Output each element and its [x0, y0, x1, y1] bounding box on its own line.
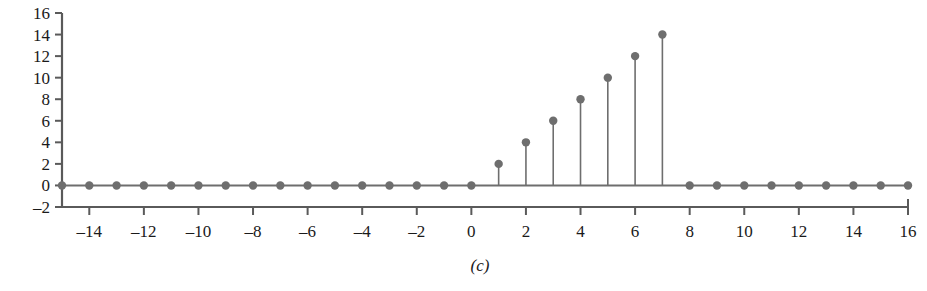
x-axis-tick-label: 4	[576, 222, 585, 241]
stem-marker	[467, 181, 475, 189]
stem-marker	[194, 181, 202, 189]
x-axis-tick-label: –10	[185, 222, 212, 241]
stem-marker	[713, 181, 721, 189]
x-axis-tick-label: –14	[76, 222, 103, 241]
y-axis-tick-label: 0	[42, 176, 51, 195]
x-axis-tick-label: 8	[685, 222, 694, 241]
stem-plot-figure: –20246810121416–14–12–10–8–6–4–202468101…	[0, 0, 927, 291]
x-axis-tick-label: 0	[467, 222, 476, 241]
stem-marker	[303, 181, 311, 189]
x-axis-tick-label: –6	[298, 222, 316, 241]
x-axis-tick-label: –12	[130, 222, 157, 241]
stem-marker	[276, 181, 284, 189]
stem-marker	[522, 138, 530, 146]
stem-marker	[112, 181, 120, 189]
stem-marker	[685, 181, 693, 189]
x-axis-tick-label: 2	[522, 222, 531, 241]
y-axis-tick-label: 6	[42, 112, 51, 131]
stem-marker	[58, 181, 66, 189]
y-axis-tick-label: 12	[33, 47, 50, 66]
stem-marker	[767, 181, 775, 189]
stem-marker	[494, 160, 502, 168]
x-axis-tick-label: –2	[407, 222, 425, 241]
y-axis-tick-label: 10	[33, 69, 50, 88]
stem-marker	[740, 181, 748, 189]
stem-marker	[849, 181, 857, 189]
stem-marker	[167, 181, 175, 189]
stem-marker	[631, 52, 639, 60]
stem-marker	[85, 181, 93, 189]
stem-marker	[358, 181, 366, 189]
stem-plot-canvas: –20246810121416–14–12–10–8–6–4–202468101…	[0, 0, 927, 291]
stem-marker	[440, 181, 448, 189]
stem-marker	[249, 181, 257, 189]
stem-marker	[385, 181, 393, 189]
stem-marker	[222, 181, 230, 189]
stem-marker	[658, 30, 666, 38]
x-axis-tick-label: 10	[736, 222, 753, 241]
stem-marker	[877, 181, 885, 189]
stem-marker	[140, 181, 148, 189]
stem-marker	[413, 181, 421, 189]
stem-marker	[576, 95, 584, 103]
y-axis-tick-label: –2	[32, 198, 50, 217]
stem-marker	[331, 181, 339, 189]
x-axis-tick-label: 14	[845, 222, 863, 241]
stem-marker	[795, 181, 803, 189]
y-axis-tick-label: 8	[42, 90, 51, 109]
x-axis-tick-label: 12	[790, 222, 807, 241]
stem-marker	[904, 181, 912, 189]
stem-marker	[604, 73, 612, 81]
figure-caption: (c)	[471, 256, 490, 275]
y-axis-tick-label: 4	[42, 133, 51, 152]
x-axis-tick-label: 16	[900, 222, 917, 241]
x-axis-tick-label: –8	[244, 222, 262, 241]
stem-marker	[549, 117, 557, 125]
y-axis-tick-label: 2	[42, 155, 51, 174]
x-axis-tick-label: –4	[353, 222, 372, 241]
y-axis-tick-label: 16	[33, 4, 50, 23]
y-axis-tick-label: 14	[33, 26, 51, 45]
x-axis-tick-label: 6	[631, 222, 640, 241]
stem-marker	[822, 181, 830, 189]
